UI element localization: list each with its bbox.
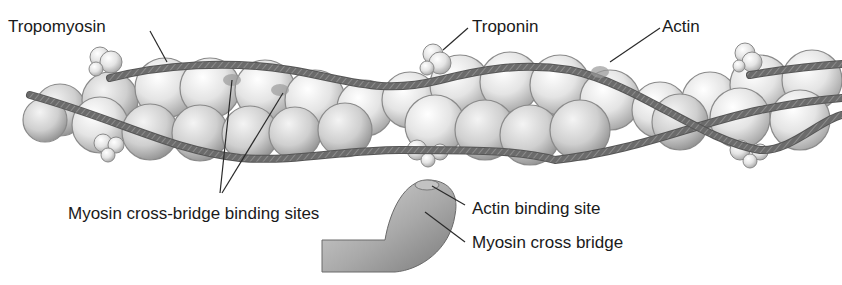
- label-tropomyosin: Tropomyosin: [8, 18, 106, 35]
- label-myosin-cross-bridge: Myosin cross bridge: [472, 234, 623, 251]
- label-troponin: Troponin: [472, 18, 538, 35]
- thin-filament-diagram: Tropomyosin Troponin Actin Myosin cross-…: [0, 0, 842, 285]
- myosin-cross-bridge-shape: [322, 180, 456, 272]
- diagram-artwork: [0, 0, 842, 285]
- label-myosin-cross-bridge-binding-sites: Myosin cross-bridge binding sites: [68, 205, 319, 222]
- label-actin: Actin: [662, 18, 700, 35]
- label-actin-binding-site: Actin binding site: [472, 200, 601, 217]
